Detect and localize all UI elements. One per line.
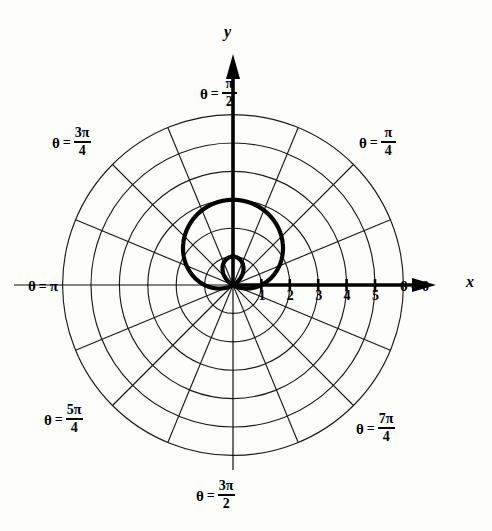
grid-spoke-7 (76, 220, 233, 285)
x-tick-label-4: 4 (344, 288, 351, 304)
theta-symbol: θ (44, 413, 52, 428)
fraction-numerator: π (383, 126, 393, 140)
fraction: 5π 4 (66, 403, 83, 436)
equals-symbol: = (367, 422, 375, 436)
angle-label-theta-pi: θ = π (28, 279, 58, 294)
angle-label-theta-7pi-4: θ = 7π 4 (356, 413, 395, 446)
grid-spoke-2 (233, 165, 353, 285)
x-tick-label-1: 1 (258, 288, 265, 304)
angle-value: 0 (422, 279, 430, 294)
angle-value: π (50, 279, 58, 294)
fraction: 3π 4 (74, 126, 91, 159)
grid-spoke-13 (233, 285, 298, 442)
angle-label-theta-3pi-2: θ = 3π 2 (196, 480, 235, 513)
polar-plot-figure: 12345 y x θ = π 2 θ = 3π 4 θ = π 4 θ (0, 0, 492, 531)
grid-spoke-6 (113, 165, 233, 285)
angle-label-theta-3pi-4: θ = 3π 4 (52, 127, 91, 160)
fraction: 7π 4 (378, 412, 395, 445)
equals-symbol: = (370, 136, 378, 150)
x-axis-label: x (466, 274, 474, 290)
equals-symbol: = (211, 87, 219, 101)
fraction-denominator: 2 (225, 95, 234, 109)
fraction-denominator: 4 (70, 421, 79, 435)
theta-symbol: θ (359, 136, 367, 151)
grid-spoke-15 (233, 285, 390, 350)
x-tick-label-3: 3 (315, 288, 322, 304)
polar-chart-canvas (0, 0, 492, 531)
y-axis-label: y (224, 24, 231, 40)
theta-symbol: θ (356, 422, 364, 437)
equals-symbol: = (63, 136, 71, 150)
grid-spoke-11 (168, 285, 233, 442)
angle-label-theta-pi-2: θ = π 2 (200, 78, 237, 111)
angle-label-theta-pi-4: θ = π 4 (359, 127, 396, 160)
fraction: π 4 (381, 126, 396, 159)
grid-spoke-10 (113, 285, 233, 405)
x-tick-label-2: 2 (287, 288, 294, 304)
theta-symbol: θ (200, 87, 208, 102)
angle-label-theta-5pi-4: θ = 5π 4 (44, 404, 83, 437)
x-tick-label-5: 5 (372, 288, 379, 304)
fraction: π 2 (222, 77, 237, 110)
equals-symbol: = (207, 489, 215, 503)
equals-symbol: = (39, 280, 47, 294)
equals-symbol: = (411, 280, 419, 294)
equals-symbol: = (55, 413, 63, 427)
theta-symbol: θ (196, 489, 204, 504)
fraction-numerator: 3π (74, 126, 91, 140)
fraction-denominator: 4 (384, 144, 393, 158)
fraction: 3π 2 (218, 479, 235, 512)
theta-symbol: θ (28, 279, 36, 294)
fraction-numerator: π (224, 77, 234, 91)
angle-label-theta-0: θ = 0 (400, 279, 429, 294)
fraction-denominator: 4 (382, 430, 391, 444)
fraction-numerator: 7π (378, 412, 395, 426)
grid-spoke-9 (76, 285, 233, 350)
grid-spoke-1 (233, 220, 390, 285)
fraction-denominator: 2 (222, 497, 231, 511)
fraction-numerator: 5π (66, 403, 83, 417)
theta-symbol: θ (52, 136, 60, 151)
fraction-denominator: 4 (78, 144, 87, 158)
fraction-numerator: 3π (218, 479, 235, 493)
theta-symbol: θ (400, 279, 408, 294)
